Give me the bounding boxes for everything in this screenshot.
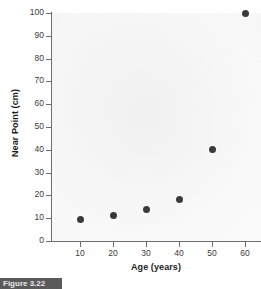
y-axis-tick-label: 70 <box>0 76 44 86</box>
x-axis-tick-label: 50 <box>200 249 224 258</box>
y-axis-tick-label-text: 70 <box>16 76 44 85</box>
x-axis-title: Age (years) <box>51 262 261 272</box>
y-axis-line <box>51 12 52 242</box>
y-axis-tick <box>46 104 51 105</box>
x-axis-tick-label: 60 <box>233 249 257 258</box>
plot-area <box>51 13 261 241</box>
scatter-point <box>242 10 249 17</box>
y-axis-tick-label-text: 30 <box>16 168 44 177</box>
scatter-point <box>209 146 216 153</box>
scatter-point <box>143 206 150 213</box>
y-axis-tick-label: 20 <box>0 190 44 200</box>
y-axis-tick <box>46 36 51 37</box>
y-axis-tick-label: 50 <box>0 122 44 132</box>
scatter-point <box>176 196 183 203</box>
x-axis-line <box>51 241 261 242</box>
y-axis-tick-label-text: 20 <box>16 190 44 199</box>
y-axis-tick-label-text: 90 <box>16 31 44 40</box>
y-axis-tick <box>46 195 51 196</box>
scatter-point <box>110 212 117 219</box>
scatter-point <box>77 216 84 223</box>
y-axis-tick-label-text: 80 <box>16 54 44 63</box>
x-axis-tick <box>245 242 246 247</box>
figure-caption-band: Figure 3.22 <box>0 278 62 289</box>
y-axis-tick-label: 60 <box>0 99 44 109</box>
y-axis-tick-label-text: 10 <box>16 213 44 222</box>
y-axis-title: Near Point (cm) <box>10 63 20 183</box>
y-axis-tick <box>46 241 51 242</box>
y-axis-tick <box>46 127 51 128</box>
y-axis-tick <box>46 173 51 174</box>
y-axis-tick-label: 10 <box>0 213 44 223</box>
x-axis-tick-label: 10 <box>68 249 92 258</box>
x-axis-tick <box>212 242 213 247</box>
plot-background-tint <box>51 13 261 241</box>
x-axis-tick <box>80 242 81 247</box>
x-axis-tick-label: 40 <box>167 249 191 258</box>
y-axis-tick-label: 30 <box>0 168 44 178</box>
y-axis-tick <box>46 218 51 219</box>
y-axis-tick <box>46 59 51 60</box>
y-axis-tick-label-text: 60 <box>16 99 44 108</box>
y-axis-tick-label-text: 0 <box>16 236 44 245</box>
y-axis-tick <box>46 150 51 151</box>
y-axis-tick-label-text: 100 <box>16 8 44 17</box>
y-axis-tick <box>46 13 51 14</box>
x-axis-tick-label: 30 <box>134 249 158 258</box>
y-axis-tick-label: 40 <box>0 145 44 155</box>
y-axis-tick-label: 90 <box>0 31 44 41</box>
y-axis-tick-label-text: 50 <box>16 122 44 131</box>
y-axis-tick-label: 0 <box>0 236 44 246</box>
x-axis-tick-label: 20 <box>101 249 125 258</box>
x-axis-tick <box>146 242 147 247</box>
x-axis-tick <box>179 242 180 247</box>
x-axis-tick <box>113 242 114 247</box>
y-axis-tick <box>46 81 51 82</box>
figure-caption-label: Figure 3.22 <box>3 279 45 289</box>
y-axis-tick-label-text: 40 <box>16 145 44 154</box>
figure-container: 0102030405060708090100 102030405060 Near… <box>0 0 261 289</box>
y-axis-tick-label: 80 <box>0 54 44 64</box>
y-axis-tick-label: 100 <box>0 8 44 18</box>
